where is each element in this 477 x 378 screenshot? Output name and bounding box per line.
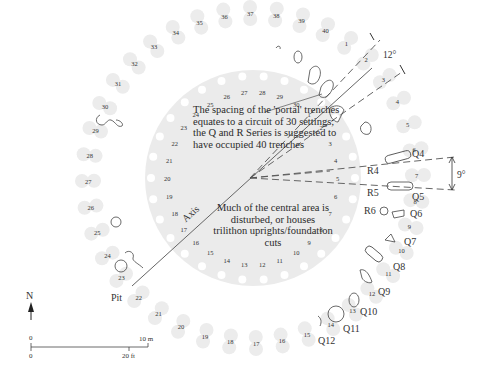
inner-ring-label: 12: [259, 261, 266, 268]
outer-ring-label: 22: [135, 294, 142, 301]
outer-ring-label: 35: [196, 19, 203, 26]
stone-q8: [364, 245, 384, 264]
outer-ring-label: 13: [349, 307, 356, 314]
outer-setting-7: [417, 168, 431, 182]
r4-label: R4: [367, 165, 379, 176]
angle-arrow-top-2: [400, 65, 405, 74]
stone-q9: [360, 270, 372, 283]
inner-ring-label: 27: [241, 89, 248, 96]
inner-ring-label: 16: [192, 239, 199, 246]
outer-ring-label: 40: [322, 27, 329, 34]
outer-ring-label: 5: [406, 121, 409, 128]
inner-ring-label: 26: [223, 93, 230, 100]
q7-label: Q7: [404, 236, 416, 247]
stone-q5: [387, 182, 413, 190]
r5-label: R5: [367, 187, 379, 198]
outer-ring-label: 37: [247, 10, 254, 17]
q8-label: Q8: [393, 261, 405, 272]
inner-setting-18: [156, 215, 164, 223]
inner-setting-17: [166, 234, 174, 242]
inner-ring-label: 14: [223, 257, 230, 264]
scale-10m-label: 10 m: [139, 335, 153, 343]
outer-ring-label: 34: [173, 29, 180, 36]
inner-setting-5: [351, 174, 359, 182]
inner-setting-14: [217, 271, 225, 279]
inner-ring-label: 28: [259, 89, 266, 96]
outer-ring-label: 1: [345, 40, 348, 47]
inner-ring-label: 11: [277, 257, 283, 264]
scale-zero-metric: 0: [29, 334, 33, 342]
outer-ring-label: 32: [131, 60, 138, 67]
inner-ring-label: 15: [207, 249, 214, 256]
outer-ring-label: 16: [279, 337, 286, 344]
inner-ring-label: 29: [277, 93, 284, 100]
inner-ring-label: 23: [180, 124, 187, 131]
outer-ring-label: 25: [94, 229, 101, 236]
outer-ring-label: 17: [253, 340, 260, 347]
inner-ring-label: 5: [336, 175, 339, 182]
inner-setting-16: [181, 250, 189, 258]
inner-setting-12: [260, 275, 268, 283]
outer-ring-label: 15: [304, 331, 311, 338]
angle-arrow-top-1: [370, 33, 374, 40]
stone-27: [96, 115, 122, 126]
q11-label: Q11: [343, 323, 360, 334]
inner-setting-26: [217, 77, 225, 85]
inner-ring-label: 17: [180, 226, 187, 233]
q10-label: Q10: [360, 306, 377, 317]
inner-setting-20: [147, 174, 155, 182]
inner-setting-24: [181, 98, 189, 106]
outer-ring-label: 2: [365, 56, 368, 63]
outer-ring-label: 28: [87, 152, 94, 159]
inner-setting-29: [281, 77, 289, 85]
outer-ring-label: 18: [227, 338, 234, 345]
scale-20ft-label: 20 ft: [122, 352, 135, 360]
r6-label: R6: [364, 205, 376, 216]
inner-setting-3: [342, 133, 350, 141]
stone-38: [308, 66, 320, 84]
outer-ring-label: 38: [273, 12, 280, 19]
stone-q7: [385, 234, 395, 242]
inner-setting-27: [238, 73, 246, 81]
outer-ring-label: 11: [385, 270, 391, 277]
outer-setting-2-pair: [356, 57, 370, 71]
inner-ring-label: 10: [293, 249, 300, 256]
inner-setting-28: [260, 73, 268, 81]
north-label: N: [26, 290, 33, 301]
outer-ring-label: 3: [382, 76, 385, 83]
central-area-note: Much of the central area is disturbed, o…: [213, 202, 333, 248]
stone-23: [111, 217, 121, 227]
inner-setting-9: [317, 250, 325, 258]
inner-ring-label: 21: [166, 157, 173, 164]
portal-trenches-note: The spacing of the 'portal' trenches equ…: [193, 104, 343, 150]
inner-ring-label: 20: [164, 175, 171, 182]
outer-ring-label: 23: [118, 274, 125, 281]
inner-setting-4: [349, 153, 357, 161]
outer-ring-label: 26: [88, 204, 95, 211]
inner-setting-11: [281, 271, 289, 279]
inner-setting-19: [149, 195, 157, 203]
outer-ring-label: 21: [155, 310, 162, 317]
inner-ring-label: 18: [171, 210, 178, 217]
inner-setting-25: [198, 86, 206, 94]
stone-20-a: [125, 251, 143, 268]
inner-setting-30: [300, 86, 308, 94]
inner-setting-21: [149, 153, 157, 161]
stone-2: [360, 122, 371, 134]
q6-label: Q6: [410, 208, 422, 219]
stone-36: [276, 46, 280, 49]
north-arrow-icon: [28, 302, 34, 312]
inner-setting-23: [166, 114, 174, 122]
stone-q6: [392, 210, 404, 218]
scale-zero-imperial: 0: [29, 352, 33, 360]
q5-label: Q5: [412, 191, 424, 202]
inner-setting-13: [238, 275, 246, 283]
outer-ring-label: 33: [151, 43, 158, 50]
stone-r6: [380, 207, 388, 215]
stone-q12: [318, 316, 321, 326]
outer-ring-label: 19: [202, 333, 209, 340]
inner-ring-label: 19: [166, 193, 173, 200]
outer-ring-label: 20: [178, 323, 185, 330]
outer-ring-label: 30: [102, 103, 109, 110]
outer-ring-label: 24: [104, 252, 111, 259]
